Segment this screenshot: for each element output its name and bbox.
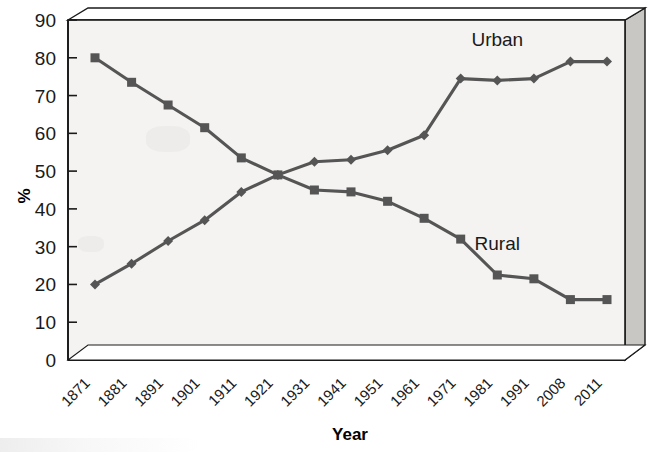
x-axis-tick-label: 1931 (277, 374, 313, 410)
x-axis-tick-label: 1951 (350, 374, 386, 410)
y-axis-tick-label: 50 (35, 161, 56, 182)
x-axis-tick-label: 1871 (58, 374, 94, 410)
x-axis-tick-label: 1991 (496, 374, 532, 410)
y-axis-tick-label: 0 (45, 350, 56, 371)
x-axis-tick-label: 1881 (94, 374, 130, 410)
data-point-rural-1961 (420, 214, 429, 223)
y-axis-tick-label: 70 (35, 86, 56, 107)
data-point-rural-1941 (347, 187, 356, 196)
data-point-rural-1911 (237, 153, 246, 162)
series-label-rural: Rural (475, 233, 520, 254)
urban-rural-line-chart: 0102030405060708090 18711881189119011911… (0, 0, 655, 452)
x-axis-tick-label: 1981 (460, 374, 496, 410)
x-axis-tick-label: 1921 (240, 374, 276, 410)
data-point-rural-1881 (127, 78, 136, 87)
data-point-rural-1971 (456, 235, 465, 244)
data-point-rural-1871 (91, 53, 100, 62)
chart-frame-top-panel (68, 8, 645, 20)
scan-smudge-upper (146, 126, 190, 152)
x-axis-tick-label: 1971 (423, 374, 459, 410)
x-axis-tick-label: 1961 (387, 374, 423, 410)
x-axis-tick-label: 1911 (205, 374, 240, 409)
y-axis-tick-label: 90 (35, 10, 56, 31)
x-axis-tick-label: 2011 (570, 374, 605, 409)
y-axis-title: % (15, 188, 34, 203)
y-axis-tick-labels: 0102030405060708090 (35, 10, 56, 371)
y-axis-tick-label: 80 (35, 48, 56, 69)
chart-figure: 0102030405060708090 18711881189119011911… (0, 0, 655, 452)
y-axis-tick-label: 40 (35, 199, 56, 220)
data-point-rural-1931 (310, 186, 319, 195)
y-axis-tick-label: 20 (35, 274, 56, 295)
y-axis-tick-label: 10 (35, 312, 56, 333)
x-axis-title: Year (332, 425, 368, 444)
data-point-rural-1991 (529, 274, 538, 283)
x-axis-tick-labels: 1871188118911901191119211931194119511961… (58, 374, 606, 410)
y-axis-tick-label: 60 (35, 123, 56, 144)
x-axis-tick-label: 1891 (131, 374, 167, 410)
x-axis-tick-label: 1941 (314, 374, 350, 410)
data-point-rural-2008 (566, 295, 575, 304)
y-axis-tick-label: 30 (35, 237, 56, 258)
x-axis-tick-label: 2008 (533, 374, 569, 410)
data-point-rural-1981 (493, 271, 502, 280)
scan-edge-artifact (0, 438, 200, 452)
data-point-rural-1891 (164, 101, 173, 110)
data-point-rural-2011 (603, 295, 612, 304)
data-point-rural-1921 (273, 170, 282, 179)
data-point-rural-1901 (200, 123, 209, 132)
scan-smudge-lower (78, 236, 104, 252)
x-axis-tick-label: 1901 (167, 374, 203, 410)
data-point-rural-1951 (383, 197, 392, 206)
x-axis-depth-strip (68, 345, 645, 360)
chart-frame-right-panel (625, 8, 645, 360)
series-label-urban: Urban (471, 29, 523, 50)
